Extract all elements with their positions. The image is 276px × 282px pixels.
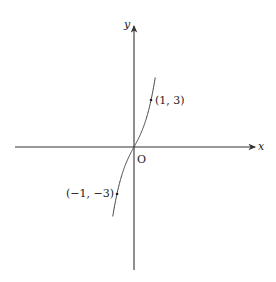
point-label-1-3: (1, 3) [155,94,185,107]
function-graph: y x O (1, 3) (−1, −3) [0,0,276,282]
point-label-neg1-neg3: (−1, −3) [66,187,114,200]
point-1-3 [150,99,153,102]
y-axis-label: y [123,18,131,31]
origin-label: O [137,153,146,166]
x-axis-label: x [258,140,265,153]
point-neg1-neg3 [116,193,119,196]
